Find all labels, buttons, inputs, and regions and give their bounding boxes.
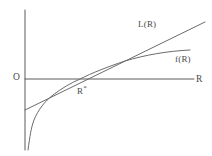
series-label-L: L(R) [138,20,156,29]
figure-canvas: L(R) f(R) O R R* [0,0,212,156]
curve-series-f [28,50,190,150]
fixed-point-label: R* [77,85,87,96]
line-series-L [25,22,205,110]
origin-label: O [13,73,20,83]
fixed-point-star: * [83,84,87,92]
series-label-f: f(R) [175,55,191,64]
x-axis-label: R [196,75,203,85]
plot-svg [0,0,212,156]
